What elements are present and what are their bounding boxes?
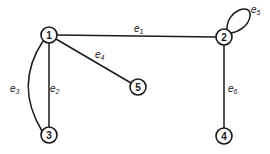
edge-e1 [57, 35, 216, 37]
edge-label-e1: e1 [134, 23, 144, 35]
node-2: 2 [216, 29, 232, 45]
edge-label-e3: e3 [10, 83, 20, 95]
edge-label-e5: e5 [251, 4, 261, 16]
node-5: 5 [130, 79, 146, 95]
node-3-label: 3 [46, 130, 52, 141]
node-3: 3 [41, 127, 57, 143]
edge-label-e2: e2 [50, 83, 60, 95]
edge-e3 [28, 41, 43, 131]
node-2-label: 2 [221, 32, 227, 43]
node-1-label: 1 [46, 30, 52, 41]
graph-diagram: 1 2 3 4 5 e1 e2 e3 e4 e5 e6 [0, 0, 270, 154]
edge-e4 [56, 39, 131, 83]
node-4: 4 [216, 128, 232, 144]
node-1: 1 [41, 27, 57, 43]
edge-label-e4: e4 [95, 49, 105, 61]
edge-label-e6: e6 [228, 83, 238, 95]
node-5-label: 5 [135, 82, 141, 93]
edge-e5-self-loop [227, 9, 250, 33]
node-4-label: 4 [221, 131, 227, 142]
